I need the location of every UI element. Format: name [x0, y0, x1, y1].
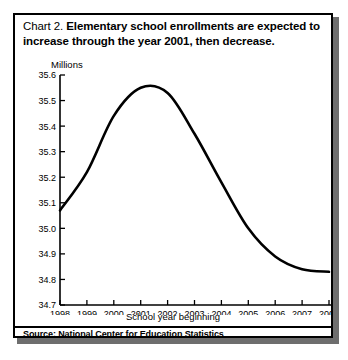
source-divider	[15, 326, 331, 328]
y-axis-tick-group: 34.734.834.935.035.135.235.335.435.535.6	[38, 70, 65, 310]
y-tick-label: 34.8	[38, 275, 56, 285]
y-tick-label: 35.6	[38, 70, 56, 80]
y-tick-label: 35.2	[38, 173, 56, 183]
x-axis-title: School year beginning	[15, 311, 331, 322]
y-tick-label: 35.1	[38, 198, 56, 208]
chart-plot-svg: 34.734.834.935.035.135.235.335.435.535.6…	[15, 15, 331, 315]
y-tick-label: 35.4	[38, 122, 56, 132]
figure-frame: Chart 2. Elementary school enrollments a…	[13, 13, 333, 338]
y-tick-label: 34.9	[38, 249, 56, 259]
source-note: Source: National Center for Education St…	[23, 329, 224, 339]
y-tick-label: 35.0	[38, 224, 56, 234]
y-tick-label: 35.5	[38, 96, 56, 106]
y-tick-label: 35.3	[38, 147, 56, 157]
data-series-line	[60, 86, 329, 272]
chart-figure-root: Chart 2. Elementary school enrollments a…	[0, 0, 348, 360]
plot-area: Millions 34.734.834.935.035.135.235.335.…	[15, 15, 331, 336]
